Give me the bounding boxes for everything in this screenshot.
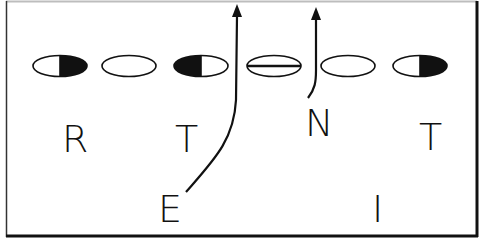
offensive-player-center bbox=[247, 56, 301, 77]
arrowhead-icon bbox=[232, 4, 242, 17]
offensive-player-2 bbox=[102, 56, 156, 77]
label-T1: T bbox=[175, 117, 198, 161]
defensive-labels: R T N T E I bbox=[62, 101, 442, 231]
label-T2: T bbox=[419, 115, 442, 159]
offensive-player-1 bbox=[33, 56, 87, 77]
rush-arrows bbox=[186, 4, 321, 192]
offensive-player-6 bbox=[393, 56, 447, 77]
label-I: I bbox=[372, 187, 383, 231]
label-R: R bbox=[62, 117, 88, 161]
arrow-e-rush bbox=[186, 4, 242, 192]
label-E: E bbox=[158, 187, 182, 231]
diagram-canvas: R T N T E I bbox=[0, 0, 483, 243]
label-N: N bbox=[305, 101, 333, 145]
offensive-player-5 bbox=[321, 56, 375, 77]
arrowhead-icon bbox=[311, 7, 321, 20]
arrow-n-rush bbox=[308, 7, 321, 98]
offensive-player-3 bbox=[174, 56, 228, 77]
offensive-line bbox=[33, 56, 447, 77]
